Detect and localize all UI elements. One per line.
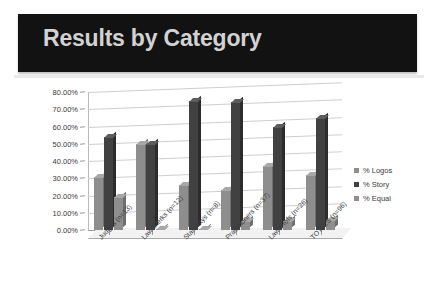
bar-face (136, 144, 145, 230)
bar (199, 229, 208, 230)
y-axis-tick-label: 40.00% (53, 157, 78, 166)
bar (104, 137, 113, 230)
bar (189, 101, 198, 230)
y-axis-tick-mark (80, 177, 85, 179)
bar (273, 127, 282, 231)
legend-label: % Story (363, 180, 389, 189)
y-axis-tick-mark (80, 108, 85, 110)
y-axis-tick-label: 50.00% (53, 139, 78, 148)
bar-face (146, 144, 155, 230)
y-axis-tick-mark (80, 195, 85, 197)
y-axis-tick-label: 80.00% (53, 88, 78, 97)
legend-item[interactable]: % Story (354, 180, 418, 189)
bar-face (231, 102, 240, 230)
y-axis-tick-label: 60.00% (53, 122, 78, 131)
y-axis-tick-mark (80, 126, 85, 128)
bar (231, 102, 240, 230)
y-axis-tick-mark (80, 91, 85, 93)
bar-face (316, 118, 325, 230)
bar-face (104, 137, 113, 230)
x-axis: Judges (n=13)Law Clerks (n=12)Staff Atty… (88, 236, 348, 294)
bar (316, 118, 325, 230)
y-axis: 0.00%10.00%20.00%30.00%40.00%50.00%60.00… (26, 84, 86, 230)
y-axis-tick-label: 0.00% (57, 226, 78, 235)
y-axis-tick-mark (80, 160, 85, 162)
y-axis-tick-label: 10.00% (53, 208, 78, 217)
legend-swatch-icon (354, 182, 359, 187)
legend-swatch-icon (354, 196, 359, 201)
legend-label: % Logos (363, 166, 392, 175)
chart-panel: 0.00%10.00%20.00%30.00%40.00%50.00%60.00… (26, 84, 418, 294)
bar (179, 185, 188, 230)
legend-item[interactable]: % Logos (354, 166, 418, 175)
title-banner: Results by Category (18, 14, 417, 72)
page-title: Results by Category (43, 25, 262, 52)
legend-item[interactable]: % Equal (354, 194, 418, 203)
bar-face (273, 127, 282, 231)
y-axis-tick-mark (80, 212, 85, 214)
legend-swatch-icon (354, 168, 359, 173)
y-axis-tick-mark (80, 229, 85, 231)
y-axis-tick-mark (80, 143, 85, 145)
bar-face (189, 101, 198, 230)
legend-label: % Equal (363, 194, 391, 203)
y-axis-tick-label: 70.00% (53, 105, 78, 114)
bar-top (156, 226, 169, 230)
bar-top (199, 226, 212, 230)
bar (94, 177, 103, 230)
bar (156, 229, 165, 230)
bar-face (221, 190, 230, 230)
y-axis-tick-label: 20.00% (53, 191, 78, 200)
bar-face (94, 177, 103, 230)
bar (221, 190, 230, 230)
y-axis-tick-label: 30.00% (53, 174, 78, 183)
bar (136, 144, 145, 230)
chart-legend: % Logos% Story% Equal (354, 166, 418, 208)
bar-face (179, 185, 188, 230)
bar (146, 144, 155, 230)
